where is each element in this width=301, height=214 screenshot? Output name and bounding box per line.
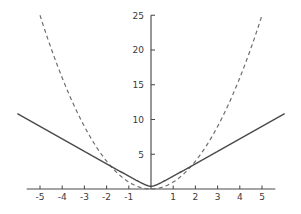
x-tick-label-4: -1 — [124, 192, 133, 202]
x-tick-label-5: 1 — [170, 192, 176, 202]
x-tick-label-2: -3 — [80, 192, 89, 202]
axes — [27, 15, 276, 189]
x-tick-label-7: 3 — [215, 192, 221, 202]
y-tick-label-2: 15 — [133, 80, 144, 90]
x-tick-label-0: -5 — [36, 192, 45, 202]
x-tick-label-8: 4 — [237, 192, 243, 202]
tick-labels: -5-4-3-2-112345510152025 — [36, 11, 265, 202]
x-tick-label-6: 2 — [193, 192, 199, 202]
x-tick-label-3: -2 — [102, 192, 111, 202]
y-tick-label-1: 10 — [133, 115, 145, 125]
y-tick-label-3: 20 — [133, 45, 145, 55]
y-tick-label-4: 25 — [133, 11, 144, 21]
x-tick-label-9: 5 — [259, 192, 265, 202]
x-tick-label-1: -4 — [58, 192, 67, 202]
y-tick-label-0: 5 — [138, 150, 144, 160]
plot-area: -5-4-3-2-112345510152025 — [0, 0, 301, 214]
chart-figure: -5-4-3-2-112345510152025 — [0, 0, 301, 214]
